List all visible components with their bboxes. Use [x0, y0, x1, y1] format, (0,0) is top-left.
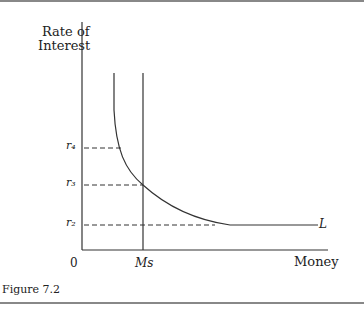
- figure-caption: Figure 7.2: [2, 283, 60, 296]
- liquidity-preference-curve: [114, 73, 318, 225]
- r2-label: r₂: [66, 216, 76, 229]
- curve-label-l: L: [319, 217, 327, 231]
- r4-label: r₄: [66, 139, 76, 152]
- y-axis-label-line1: Rate of: [42, 24, 90, 39]
- r3-label: r₃: [66, 176, 76, 189]
- money-supply-label: Ms: [135, 256, 153, 270]
- x-axis-label: Money: [294, 254, 339, 269]
- y-axis-label-line2: Interest: [38, 38, 90, 53]
- origin-label: 0: [70, 256, 78, 270]
